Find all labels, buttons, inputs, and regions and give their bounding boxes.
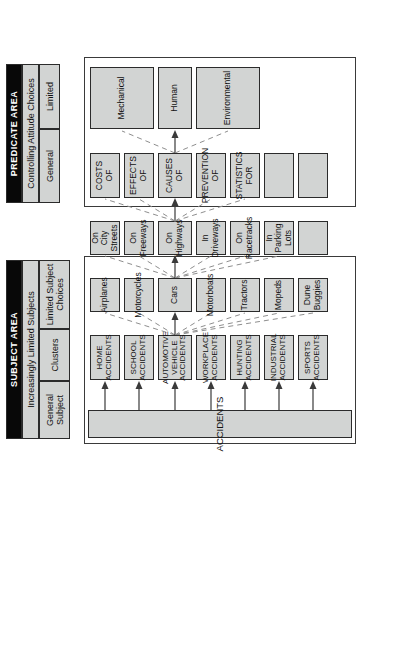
predicate-limited-box-2[interactable]: Environmental xyxy=(196,67,260,129)
diagram-stage: SUBJECT AREA Increasingly Limited Subjec… xyxy=(0,0,401,659)
predicate-general-box-5-empty[interactable] xyxy=(264,153,294,198)
predicate-limited-box-0[interactable]: Mechanical xyxy=(90,67,154,129)
predicate-general-label-2: CAUSES OF xyxy=(165,154,184,197)
predicate-general-box-4[interactable]: STATISTICS FOR xyxy=(230,153,260,198)
predicate-general-box-3[interactable]: PREVENTION OF xyxy=(196,153,226,198)
predicate-general-box-1[interactable]: EFFECTS OF xyxy=(124,153,154,198)
predicate-general-box-2[interactable]: CAUSES OF xyxy=(158,153,192,198)
predicate-limited-label-2: Environmental xyxy=(223,69,233,127)
predicate-general-label-4: STATISTICS FOR xyxy=(235,150,254,202)
predicate-limited-label-0: Mechanical xyxy=(117,75,127,122)
predicate-general-box-6-empty[interactable] xyxy=(298,153,328,198)
diagram-canvas: SUBJECT AREA Increasingly Limited Subjec… xyxy=(0,0,401,659)
predicate-limited-box-1[interactable]: Human xyxy=(158,67,192,129)
predicate-general-label-3: PREVENTION OF xyxy=(201,146,220,205)
predicate-general-box-0[interactable]: COSTS OF xyxy=(90,153,120,198)
predicate-general-label-1: EFFECTS OF xyxy=(129,154,148,197)
predicate-general-label-0: COSTS OF xyxy=(95,154,114,197)
predicate-limited-label-1: Human xyxy=(170,82,180,113)
